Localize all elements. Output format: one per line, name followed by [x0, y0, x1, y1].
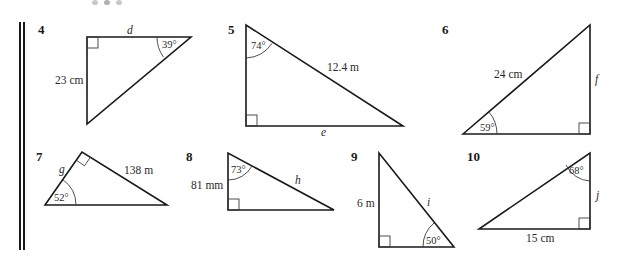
side-label: 23 cm	[55, 75, 83, 87]
triangle-9	[379, 153, 454, 247]
right-angle-mark-7	[76, 158, 90, 166]
triangle-6	[463, 25, 590, 134]
side-label-e: e	[321, 127, 326, 139]
side-label-f: f	[595, 74, 598, 86]
right-angle-mark-8	[228, 199, 239, 210]
triangle-diagrams	[0, 0, 618, 262]
triangle-8	[228, 153, 334, 210]
angle-label: 74°	[251, 41, 266, 52]
angle-label: 73°	[231, 165, 246, 176]
problem-number: 7	[36, 150, 43, 163]
worksheet: 4 5 6 7 8 9 10 d 39° 23 cm 74° 12.4 m e …	[0, 0, 618, 262]
right-angle-mark-6	[579, 123, 590, 134]
problem-number: 10	[467, 150, 480, 163]
angle-label: 39°	[162, 40, 177, 51]
right-angle-mark-5	[246, 115, 257, 126]
side-label-h: h	[295, 175, 301, 187]
angle-label: 52°	[54, 193, 69, 204]
angle-label: 50°	[426, 236, 441, 247]
side-label: 15 cm	[526, 233, 554, 245]
problem-number: 6	[442, 23, 449, 36]
side-label: 12.4 m	[327, 62, 359, 74]
problem-number: 9	[351, 150, 358, 163]
side-label-i: i	[427, 197, 430, 209]
side-label-j: j	[596, 190, 599, 202]
side-label: 81 mm	[191, 180, 223, 192]
problem-number: 5	[228, 23, 235, 36]
right-angle-mark-10	[579, 218, 590, 229]
right-angle-mark-4	[87, 37, 98, 48]
right-angle-mark-9	[379, 236, 390, 247]
side-label: 24 cm	[494, 69, 522, 81]
angle-label: 59°	[480, 123, 495, 134]
triangle-5	[246, 25, 403, 126]
side-label-g: g	[59, 164, 65, 176]
problem-number: 8	[186, 150, 193, 163]
angle-label: 68°	[569, 166, 584, 177]
side-label: 6 m	[357, 198, 375, 210]
side-label: 138 m	[124, 165, 153, 177]
side-label-d: d	[127, 25, 133, 37]
problem-number: 4	[38, 23, 45, 36]
